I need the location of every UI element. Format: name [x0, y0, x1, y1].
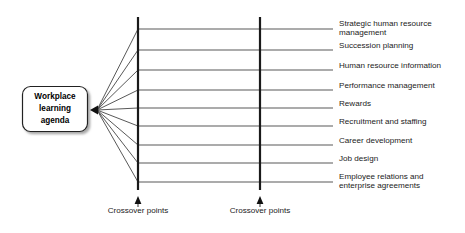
branch-labels-group: Strategic human resourcemanagementSucces… [339, 19, 441, 191]
fan-line-7 [97, 110, 138, 145]
branch-label-line: Succession planning [339, 41, 413, 50]
fan-line-5 [97, 108, 138, 110]
branch-label-line: enterprise agreements [339, 181, 420, 190]
branch-horizontal-lines [138, 29, 333, 182]
branch-label-4: Performance management [339, 81, 436, 90]
fan-line-9 [97, 110, 138, 182]
crossover-arrowhead-1 [135, 196, 142, 204]
convergence-arrowhead [90, 106, 98, 115]
branch-label-5: Rewards [339, 99, 371, 108]
branch-label-8: Job design [339, 154, 378, 163]
source-box-line: Workplace [34, 92, 76, 101]
branch-label-1: Strategic human resourcemanagement [339, 19, 432, 38]
branch-label-line: Career development [339, 136, 413, 145]
diagram-container: Workplacelearningagenda Strategic human … [0, 0, 465, 233]
branch-label-line: Strategic human resource [339, 19, 432, 28]
source-box-group: Workplacelearningagenda [23, 87, 88, 132]
branch-label-line: Recruitment and staffing [339, 117, 427, 126]
branch-label-line: management [339, 28, 387, 37]
crossover-arrowhead-2 [257, 196, 264, 204]
fan-connector-lines [97, 29, 138, 182]
source-box-line: learning [39, 104, 71, 113]
crossover-bars-group [138, 17, 260, 190]
branch-label-line: Rewards [339, 99, 371, 108]
crossover-annotations-group: Crossover pointsCrossover points [108, 196, 291, 215]
fan-line-4 [97, 90, 138, 110]
branch-label-line: Human resource information [339, 61, 441, 70]
branch-label-line: Employee relations and [339, 172, 424, 181]
branch-label-9: Employee relations andenterprise agreeme… [339, 172, 424, 191]
source-box-line: agenda [41, 116, 70, 125]
crossover-label-1: Crossover points [108, 206, 169, 215]
branch-label-line: Performance management [339, 81, 436, 90]
branch-label-6: Recruitment and staffing [339, 117, 427, 126]
branch-label-3: Human resource information [339, 61, 441, 70]
branch-label-line: Job design [339, 154, 378, 163]
branch-label-7: Career development [339, 136, 413, 145]
fan-line-1 [97, 29, 138, 110]
fan-line-3 [97, 70, 138, 110]
crossover-label-2: Crossover points [230, 206, 291, 215]
branch-label-2: Succession planning [339, 41, 413, 50]
workplace-learning-agenda-diagram: Workplacelearningagenda Strategic human … [0, 0, 465, 233]
fan-line-2 [97, 50, 138, 110]
